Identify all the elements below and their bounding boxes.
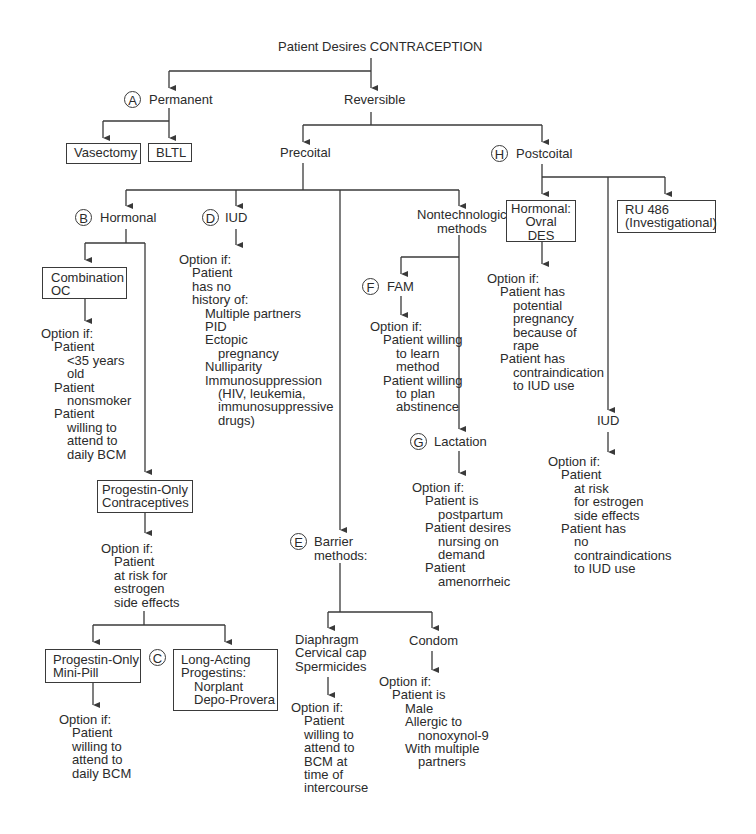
criteria-line: Immunosuppression	[179, 374, 334, 387]
criteria-line: Patient desires	[412, 521, 511, 534]
criteria-line: estrogen	[101, 582, 180, 595]
node-hormonal: Hormonal	[100, 211, 156, 225]
long-acting-line3: Norplant	[181, 680, 270, 693]
ru486-line1: RU 486	[625, 203, 709, 216]
diaphragm-line1: Diaphragm	[295, 633, 367, 646]
post-hormonal-line2: Ovral	[511, 215, 571, 228]
node-progestin-only: Progestin-Only Contraceptives	[97, 480, 193, 513]
criteria-line: (HIV, leukemia,	[179, 387, 334, 400]
marker-e-icon: E	[290, 533, 307, 550]
criteria-line: Patient	[291, 714, 368, 727]
criteria-line: at risk for	[101, 569, 180, 582]
criteria-line: time of	[291, 768, 368, 781]
criteria-mini-pill: Option if: Patient willing to attend to …	[59, 713, 131, 780]
criteria-fam: Option if: Patient willing to learn meth…	[370, 320, 463, 414]
criteria-line: Option if:	[548, 455, 672, 468]
criteria-line: attend to	[291, 741, 368, 754]
criteria-line: intercourse	[291, 781, 368, 794]
criteria-line: nursing on	[412, 535, 511, 548]
criteria-line: willing to	[41, 421, 131, 434]
marker-c-icon: C	[149, 649, 166, 666]
barrier-line2: methods:	[314, 549, 367, 563]
criteria-line: postpartum	[412, 508, 511, 521]
criteria-line: abstinence	[370, 400, 463, 413]
criteria-line: contraindication	[487, 366, 604, 379]
criteria-line: history of:	[179, 293, 334, 306]
nontechnologic-line1: Nontechnologic	[417, 208, 507, 222]
criteria-line: Patient willing	[370, 333, 463, 346]
criteria-line: PID	[179, 320, 334, 333]
combination-oc-line2: OC	[51, 284, 118, 297]
criteria-line: nonoxynol-9	[379, 729, 489, 742]
criteria-line: Option if:	[412, 481, 511, 494]
ru486-line2: (Investigational)	[625, 216, 709, 229]
mini-pill-line2: Mini-Pill	[53, 666, 133, 679]
barrier-line1: Barrier	[314, 535, 367, 549]
marker-g-icon: G	[410, 433, 427, 450]
criteria-line: Patient is	[412, 494, 511, 507]
criteria-line: daily BCM	[41, 448, 131, 461]
node-postcoital: Postcoital	[516, 147, 572, 161]
progestin-only-line2: Contraceptives	[102, 496, 188, 509]
node-diaphragm-cap-spermicides: Diaphragm Cervical cap Spermicides	[295, 633, 367, 673]
criteria-line: Option if:	[291, 701, 368, 714]
criteria-postcoital-iud: Option if: Patient at risk for estrogen …	[548, 455, 672, 576]
criteria-line: Patient willing	[370, 374, 463, 387]
criteria-line: Ectopic	[179, 333, 334, 346]
criteria-progestin-only: Option if: Patient at risk for estrogen …	[101, 542, 180, 609]
criteria-condom: Option if: Patient is Male Allergic to n…	[379, 675, 489, 769]
criteria-line: Patient	[59, 726, 131, 739]
node-condom: Condom	[409, 634, 458, 648]
criteria-line: Male	[379, 702, 489, 715]
vasectomy-label: Vasectomy	[74, 145, 137, 160]
criteria-line: Patient	[41, 340, 131, 353]
node-iud: IUD	[225, 211, 247, 225]
criteria-line: With multiple	[379, 742, 489, 755]
criteria-line: daily BCM	[59, 767, 131, 780]
criteria-line: Patient has	[487, 352, 604, 365]
post-hormonal-line1: Hormonal:	[511, 202, 571, 215]
mini-pill-line1: Progestin-Only	[53, 653, 133, 666]
criteria-line: amenorrheic	[412, 575, 511, 588]
criteria-diaphragm: Option if: Patient willing to attend to …	[291, 701, 368, 795]
long-acting-line4: Depo-Provera	[181, 693, 270, 706]
marker-h-icon: H	[491, 145, 508, 162]
criteria-line: immunosuppressive	[179, 400, 334, 413]
criteria-line: to IUD use	[487, 379, 604, 392]
criteria-line: attend to	[59, 753, 131, 766]
criteria-line: willing to	[291, 728, 368, 741]
criteria-line: Multiple partners	[179, 307, 334, 320]
progestin-only-line1: Progestin-Only	[102, 483, 188, 496]
combination-oc-line1: Combination	[51, 271, 118, 284]
criteria-line: Nulliparity	[179, 360, 334, 373]
criteria-line: demand	[412, 548, 511, 561]
node-postcoital-iud: IUD	[597, 414, 619, 428]
node-fam: FAM	[387, 280, 414, 294]
node-nontechnologic: Nontechnologic methods	[417, 208, 507, 236]
node-permanent: Permanent	[149, 93, 213, 107]
criteria-line: at risk	[548, 482, 672, 495]
post-hormonal-line3: DES	[511, 229, 571, 242]
criteria-line: to IUD use	[548, 562, 672, 575]
criteria-line: Option if:	[179, 253, 334, 266]
criteria-iud: Option if: Patient has no history of: Mu…	[179, 253, 334, 427]
criteria-line: Patient	[101, 555, 180, 568]
criteria-line: potential	[487, 299, 604, 312]
criteria-line: Patient has	[548, 522, 672, 535]
criteria-line: to plan	[370, 387, 463, 400]
criteria-line: Option if:	[370, 320, 463, 333]
node-combination-oc: Combination OC	[42, 267, 127, 299]
criteria-line: side effects	[548, 509, 672, 522]
marker-a-icon: A	[124, 91, 141, 108]
diaphragm-line2: Cervical cap	[295, 646, 367, 659]
diaphragm-line3: Spermicides	[295, 660, 367, 673]
criteria-line: pregnancy	[179, 347, 334, 360]
marker-d-icon: D	[202, 209, 219, 226]
criteria-line: has no	[179, 280, 334, 293]
node-vasectomy: Vasectomy	[66, 143, 141, 164]
criteria-line: partners	[379, 755, 489, 768]
nontechnologic-line2: methods	[417, 222, 507, 236]
criteria-line: BCM at	[291, 755, 368, 768]
node-bltl: BLTL	[148, 143, 192, 162]
criteria-line: Allergic to	[379, 715, 489, 728]
